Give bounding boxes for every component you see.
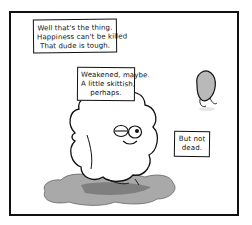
caption-box-3: But not dead. xyxy=(174,131,210,158)
caption-3-line-1: But not xyxy=(178,135,206,144)
comic-panel: Well that's the thing. Happiness can't b… xyxy=(9,11,239,216)
caption-2-line-1: Weakened, maybe. xyxy=(81,71,131,80)
caption-2-line-3: perhaps. xyxy=(81,89,131,98)
caption-2-line-2: A little skittish, xyxy=(81,80,131,89)
caption-1-line-3: That dude is tough. xyxy=(37,42,113,52)
small-grey-creature xyxy=(197,71,217,111)
caption-3-line-2: dead. xyxy=(178,144,206,153)
caption-box-2: Weakened, maybe. A little skittish, perh… xyxy=(77,67,135,102)
happiness-cloud xyxy=(70,89,157,185)
caption-box-1: Well that's the thing. Happiness can't b… xyxy=(33,19,117,54)
